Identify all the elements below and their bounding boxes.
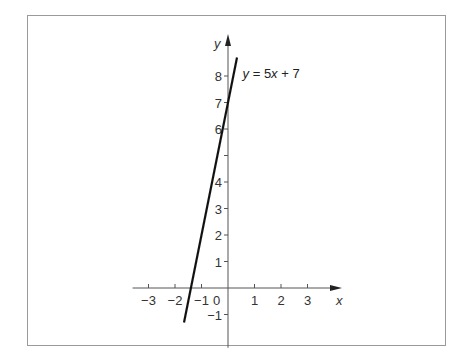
- y-tick-label: 4: [215, 175, 222, 190]
- series: [184, 57, 237, 322]
- x-tick-label: 2: [277, 293, 284, 308]
- y-tick-label: 7: [215, 96, 222, 111]
- x-tick-label: −2: [168, 293, 183, 308]
- series-line: [184, 57, 237, 322]
- chart-svg: −3−2−1123−11234678 x y 0 y = 5x + 7: [0, 0, 469, 354]
- x-tick-label: 3: [304, 293, 311, 308]
- x-axis-label: x: [335, 293, 343, 308]
- x-tick-label: −1: [194, 293, 209, 308]
- equation-const: + 7: [278, 66, 300, 81]
- y-tick-label: 2: [215, 228, 222, 243]
- y-tick-label: 8: [215, 69, 222, 84]
- y-axis-label: y: [213, 36, 222, 51]
- y-tick-label: 3: [215, 202, 222, 217]
- y-tick-label: −1: [207, 308, 222, 323]
- equation-eq: = 5: [249, 66, 271, 81]
- origin-label: 0: [213, 293, 220, 308]
- equation-annotation: y = 5x + 7: [242, 66, 300, 81]
- y-tick-label: 1: [215, 255, 222, 270]
- x-tick-label: 1: [251, 293, 258, 308]
- x-axis-arrow: [330, 285, 342, 291]
- x-tick-label: −3: [141, 293, 156, 308]
- y-axis-arrow: [225, 34, 231, 46]
